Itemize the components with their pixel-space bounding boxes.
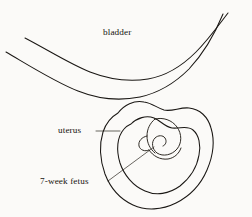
label-bladder: bladder: [103, 28, 131, 37]
fetus-body: [153, 118, 181, 155]
label-7-week-fetus: 7-week fetus: [40, 177, 89, 186]
anatomical-diagram: bladder uterus 7-week fetus: [0, 0, 252, 217]
fetus-head-curve: [147, 119, 155, 153]
label-uterus: uterus: [58, 126, 81, 135]
fetus-leader-line: [108, 147, 154, 181]
uterus-inner-lining: [118, 117, 200, 194]
bladder-outer-contour: [25, 13, 228, 80]
uterus-outer-wall: [101, 102, 214, 209]
